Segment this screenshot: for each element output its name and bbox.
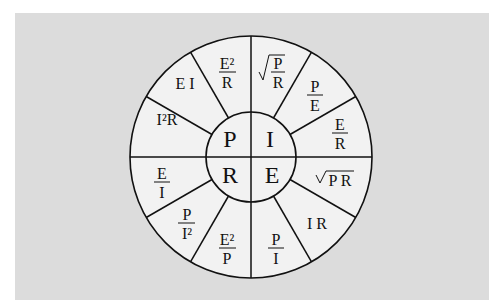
segment-p-ei: E I: [175, 75, 194, 92]
svg-text:P: P: [274, 55, 283, 72]
center-label-e: E: [265, 162, 280, 188]
svg-text:E: E: [310, 97, 320, 114]
center-label-p: P: [223, 126, 236, 152]
svg-text:P: P: [272, 231, 281, 248]
svg-text:P: P: [311, 78, 320, 95]
svg-text:R: R: [222, 74, 233, 91]
svg-text:R: R: [335, 135, 346, 152]
svg-text:E: E: [157, 165, 167, 182]
svg-text:I²: I²: [182, 225, 192, 242]
svg-text:E²: E²: [220, 231, 235, 248]
svg-text:E: E: [335, 116, 345, 133]
ohms-law-wheel: P I R E I²R E I E² R P R P E E R P R I R…: [0, 0, 500, 306]
segment-p-i2r: I²R: [157, 111, 178, 128]
svg-text:P R: P R: [329, 172, 352, 189]
svg-text:I: I: [159, 184, 164, 201]
svg-text:E²: E²: [220, 55, 235, 72]
center-label-r: R: [222, 162, 238, 188]
center-label-i: I: [266, 126, 274, 152]
segment-e-ir: I R: [307, 215, 327, 232]
svg-text:I: I: [273, 250, 278, 267]
svg-text:P: P: [223, 250, 232, 267]
svg-text:P: P: [183, 206, 192, 223]
svg-text:R: R: [273, 74, 284, 91]
